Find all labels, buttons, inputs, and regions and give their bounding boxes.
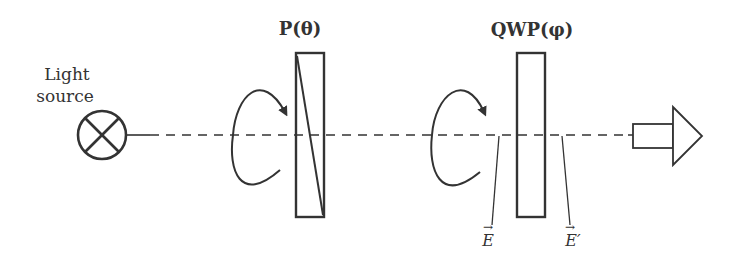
quarter-wave-plate: QWP(φ) bbox=[431, 19, 573, 217]
light-source-label-line1: Light bbox=[44, 64, 90, 84]
light-source: Light source bbox=[36, 64, 126, 159]
field-out: E′ → bbox=[562, 136, 581, 250]
arrow-output-icon bbox=[633, 107, 702, 165]
rotation-arrow-icon bbox=[232, 90, 285, 184]
crossed-circle-icon bbox=[78, 111, 126, 159]
vector-arrow-icon: → bbox=[565, 220, 575, 234]
rotation-arrow-icon bbox=[431, 90, 484, 185]
optical-setup-diagram: Light source P(θ) QWP(φ) E → bbox=[0, 0, 738, 259]
vector-arrow-icon: → bbox=[483, 220, 493, 234]
field-in: E → bbox=[481, 136, 499, 250]
qwp-label: QWP(φ) bbox=[491, 19, 574, 40]
polarizer: P(θ) bbox=[232, 18, 324, 217]
light-source-label-line2: source bbox=[36, 86, 94, 106]
polarizer-label: P(θ) bbox=[279, 18, 322, 39]
